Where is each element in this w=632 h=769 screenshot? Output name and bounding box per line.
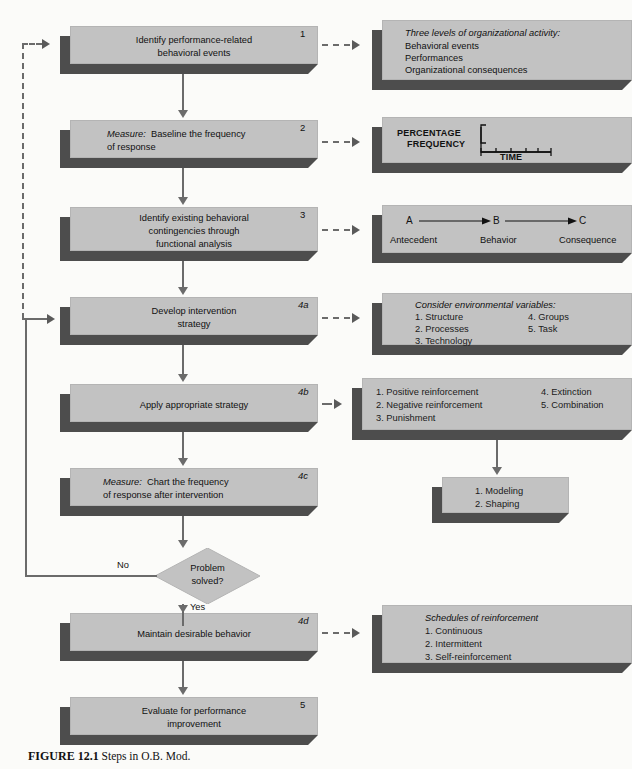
dash-step3-to-detail3: [322, 229, 350, 231]
arrow-3-to-4a: [178, 287, 188, 295]
flowchart-canvas: Identify performance-related behavioral …: [0, 0, 632, 769]
detail-box-3[interactable]: A B C Antecedent Behavior Consequence: [372, 205, 632, 263]
detail-4d-item-3: 3. Self-reinforcement: [425, 651, 511, 665]
step-4a-number: 4a: [298, 299, 309, 310]
detail-4b-right-1: 4. Extinction: [541, 386, 592, 400]
step-box-4c[interactable]: Measure: Chart the frequency of response…: [60, 468, 318, 516]
arrow-4b-to-4c: [178, 458, 188, 466]
figure-caption-text: Steps in O.B. Mod.: [102, 750, 191, 762]
connector-4a-to-4b: [182, 345, 184, 374]
detail-4a-left-3: 3. Technology: [415, 335, 472, 349]
box-face: Three levels of organizational activity:…: [382, 20, 632, 80]
arrow-detail-4b: [334, 399, 342, 409]
box-face: A B C Antecedent Behavior Consequence: [382, 205, 632, 253]
detail-4b-right-2: 5. Combination: [541, 399, 604, 413]
box-face: Evaluate for performance improvement: [70, 697, 318, 735]
arrow-detail-2: [352, 137, 360, 147]
box-face: PERCENTAGE FREQUENCY TIME: [382, 117, 632, 163]
arrow-detail-4d: [352, 628, 360, 638]
arrow-detail-3: [352, 225, 360, 235]
connector-4b-to-4c: [182, 432, 184, 458]
step-4c-rest: Chart the frequency: [142, 477, 229, 487]
box-face: Identify existing behavioral contingenci…: [70, 207, 318, 251]
box-face: Identify performance-related behavioral …: [70, 26, 318, 64]
detail-1-heading: Three levels of organizational activity:: [383, 27, 631, 41]
step-4b-line-1: Apply appropriate strategy: [71, 399, 317, 413]
connector-4c-to-decision: [182, 516, 184, 540]
step-5-line-1: Evaluate for performance: [71, 705, 317, 719]
decision-problem-solved[interactable]: Problem solved?: [155, 548, 260, 604]
abc-arrows-svg: [383, 206, 632, 254]
step-2-number: 2: [300, 122, 305, 133]
step-4a-line-1: Develop intervention: [71, 305, 317, 319]
step-box-4d[interactable]: Maintain desirable behavior 4d: [60, 613, 318, 661]
step-4a-line-2: strategy: [71, 318, 317, 332]
detail-4d-heading: Schedules of reinforcement: [383, 612, 631, 626]
step-5-line-2: improvement: [71, 718, 317, 732]
detail-box-1[interactable]: Three levels of organizational activity:…: [372, 20, 632, 90]
connector-4d-to-5: [182, 661, 184, 687]
step-3-number: 3: [300, 209, 305, 220]
step-box-2[interactable]: Measure: Baseline the frequency of respo…: [60, 120, 318, 168]
detail-box-4b-sub[interactable]: 1. Modeling 2. Shaping: [432, 477, 569, 523]
arrow-detail-1: [352, 40, 360, 50]
box-face: Maintain desirable behavior: [70, 613, 318, 651]
arrow-decision-to-4d: [178, 605, 188, 613]
step-2-line-1: Measure: Baseline the frequency: [71, 128, 317, 142]
step-box-4a[interactable]: Develop intervention strategy 4a: [60, 297, 318, 345]
detail-4b-left-3: 3. Punishment: [376, 412, 435, 426]
detail-box-2[interactable]: PERCENTAGE FREQUENCY TIME: [372, 117, 632, 173]
detail-4d-item-2: 2. Intermittent: [425, 638, 482, 652]
feedback-dashed-vertical: [22, 43, 24, 319]
arrow-4d-to-5: [178, 687, 188, 695]
measure-label: Measure:: [103, 477, 142, 487]
step-3-line-2: contingencies through: [71, 225, 317, 239]
detail-4b-sub-item-2: 2. Shaping: [475, 498, 519, 512]
abc-model: A B C Antecedent Behavior Consequence: [383, 206, 631, 254]
detail-1-item-3: Organizational consequences: [383, 64, 631, 78]
step-5-number: 5: [300, 699, 305, 710]
box-face: Measure: Chart the frequency of response…: [70, 468, 318, 506]
figure-label: FIGURE 12.1: [28, 749, 99, 763]
step-4c-number: 4c: [298, 470, 308, 481]
step-4b-number: 4b: [298, 386, 309, 397]
box-face: Apply appropriate strategy: [70, 384, 318, 422]
connector-3-to-4a: [182, 261, 184, 287]
arrow-4c-to-decision: [178, 540, 188, 548]
box-face: 1. Positive reinforcement 2. Negative re…: [362, 378, 632, 430]
detail-box-4d[interactable]: Schedules of reinforcement 1. Continuous…: [372, 605, 632, 673]
connector-no-vertical: [25, 318, 27, 576]
step-box-1[interactable]: Identify performance-related behavioral …: [60, 26, 318, 74]
step-4c-line-2: of response after intervention: [71, 489, 317, 503]
abc-word-antecedent: Antecedent: [390, 235, 437, 245]
connector-1-to-2: [182, 74, 184, 110]
dash-step2-to-detail2: [322, 141, 350, 143]
detail-box-4b[interactable]: 1. Positive reinforcement 2. Negative re…: [352, 378, 632, 440]
arrow-4a-to-4b: [178, 374, 188, 382]
detail-box-4a[interactable]: Consider environmental variables: 1. Str…: [372, 293, 632, 355]
step-1-line-2: behavioral events: [71, 47, 317, 61]
axis-label-time: TIME: [500, 152, 522, 162]
box-face: Develop intervention strategy: [70, 297, 318, 335]
box-face: Schedules of reinforcement 1. Continuous…: [382, 605, 632, 663]
box-face: Measure: Baseline the frequency of respo…: [70, 120, 318, 158]
dash-step4a-to-detail4a: [322, 317, 350, 319]
step-4d-number: 4d: [298, 615, 309, 626]
step-box-3[interactable]: Identify existing behavioral contingenci…: [60, 207, 318, 261]
abc-word-consequence: Consequence: [559, 235, 616, 245]
step-1-line-1: Identify performance-related: [71, 34, 317, 48]
feedback-dashed-top: [22, 43, 42, 45]
measure-label: Measure:: [107, 129, 146, 139]
detail-4d-item-1: 1. Continuous: [425, 625, 482, 639]
step-box-4b[interactable]: Apply appropriate strategy 4b: [60, 384, 318, 432]
step-box-5[interactable]: Evaluate for performance improvement 5: [60, 697, 318, 745]
detail-4a-right-2: 5. Task: [528, 323, 557, 337]
figure-caption: FIGURE 12.1 Steps in O.B. Mod.: [28, 749, 190, 764]
step-2-line-2: of response: [71, 141, 317, 155]
detail-4b-left-2: 2. Negative reinforcement: [376, 399, 482, 413]
arrow-no-into-4a: [47, 314, 55, 324]
step-1-number: 1: [300, 28, 305, 39]
arrow-4b-to-sub: [492, 467, 502, 475]
arrow-detail-4a: [352, 313, 360, 323]
step-4d-line-1: Maintain desirable behavior: [71, 628, 317, 642]
